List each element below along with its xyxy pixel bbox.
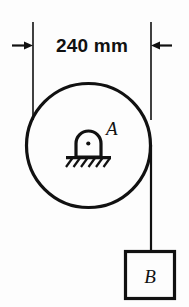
block-label-b: B (144, 266, 156, 287)
dimension-arrow-right-icon (151, 42, 172, 50)
pulley-label-a: A (104, 118, 118, 139)
mechanics-figure: 240 mm A B (0, 0, 189, 307)
ground-hatching (66, 158, 110, 167)
pin-support-symbol (66, 131, 111, 167)
figure-canvas: 240 mm A B (0, 0, 189, 307)
dimension-arrow-left-icon (12, 42, 33, 50)
dimension-label: 240 mm (56, 35, 128, 56)
pin-center-dot (86, 141, 90, 145)
